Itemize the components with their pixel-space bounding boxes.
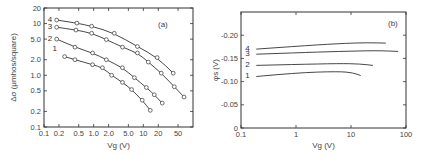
y-axis-label: φs (V) <box>211 59 220 81</box>
series-label-2: 2 <box>48 34 53 43</box>
series-label-2: 2 <box>245 60 250 69</box>
y-tick-label: 2.0 <box>31 55 41 64</box>
series-curve-1 <box>256 72 360 77</box>
panel-a-conductance-vs-gate-voltage: 0.10.20.51.02.05.01020500.10.20.51.02.05… <box>9 4 193 151</box>
y-tick-label: 5.0 <box>31 35 41 44</box>
series-label-3: 3 <box>48 22 53 31</box>
plot-frame <box>44 8 193 127</box>
chart-canvas: 0.10.20.51.02.05.01020500.10.20.51.02.05… <box>0 0 423 156</box>
y-tick-label: -0.20 <box>221 31 238 40</box>
figure: 0.10.20.51.02.05.01020500.10.20.51.02.05… <box>0 0 423 156</box>
data-point-marker <box>74 28 78 32</box>
x-tick-label: 1 <box>294 130 298 139</box>
series-label-1: 1 <box>245 71 250 80</box>
series-label-1: 1 <box>53 44 58 53</box>
series-curve-4 <box>256 43 386 49</box>
data-point-marker <box>104 58 108 62</box>
series-curve-1 <box>65 57 151 111</box>
data-point-marker <box>75 21 79 25</box>
y-tick-label: 20 <box>33 4 41 13</box>
data-point-marker <box>101 66 105 70</box>
y-tick-label: 10 <box>33 19 41 28</box>
data-point-marker <box>159 71 163 75</box>
data-point-marker <box>121 45 125 49</box>
data-point-marker <box>172 85 176 89</box>
data-point-marker <box>91 63 95 67</box>
data-point-marker <box>182 95 186 99</box>
x-tick-label: 2.0 <box>103 129 113 138</box>
x-axis-label: Vg (V) <box>312 141 335 150</box>
y-axis-label: Δσ (μmhos/square) <box>9 33 18 102</box>
data-point-marker <box>152 93 156 97</box>
series-curve-3 <box>256 51 398 54</box>
series-curve-2 <box>256 64 373 66</box>
data-point-marker <box>132 76 136 80</box>
data-point-marker <box>146 60 150 64</box>
x-tick-label: 20 <box>154 129 162 138</box>
y-tick-label: 0 <box>234 124 238 133</box>
data-point-marker <box>140 98 144 102</box>
data-point-marker <box>130 88 134 92</box>
series-label-3: 3 <box>245 49 250 58</box>
y-tick-label: -0.10 <box>221 77 238 86</box>
y-tick-label: -0.15 <box>221 54 238 63</box>
data-point-marker <box>55 37 59 41</box>
data-point-marker <box>121 66 125 70</box>
data-point-marker <box>90 24 94 28</box>
data-point-marker <box>91 51 95 55</box>
data-point-marker <box>90 31 94 35</box>
y-tick-label: 0.5 <box>31 86 41 95</box>
panel-label: (b) <box>388 19 398 28</box>
data-point-marker <box>171 71 175 75</box>
data-point-marker <box>144 86 148 90</box>
data-point-marker <box>155 56 159 60</box>
y-tick-label: 0.2 <box>31 107 41 116</box>
x-tick-label: 100 <box>400 130 413 139</box>
x-tick-label: 50 <box>174 129 182 138</box>
data-point-marker <box>110 73 114 77</box>
x-tick-label: 1.0 <box>88 129 98 138</box>
x-tick-label: 10 <box>139 129 147 138</box>
data-point-marker <box>73 45 77 49</box>
x-tick-label: 5.0 <box>123 129 133 138</box>
y-tick-label: 1.0 <box>31 71 41 80</box>
y-tick-label: 0.1 <box>31 123 41 132</box>
data-point-marker <box>63 55 67 59</box>
series-curve-2 <box>57 39 163 103</box>
panel-label: (a) <box>158 20 168 29</box>
plot-frame <box>241 12 406 128</box>
data-point-marker <box>112 31 116 35</box>
x-tick-label: 0.5 <box>73 129 83 138</box>
data-point-marker <box>148 108 152 112</box>
x-tick-label: 10 <box>347 130 355 139</box>
data-point-marker <box>136 51 140 55</box>
series-curve-3 <box>57 27 184 97</box>
data-point-marker <box>104 38 108 42</box>
y-tick-label: -0.05 <box>221 100 238 109</box>
data-point-marker <box>73 58 77 62</box>
data-point-marker <box>55 25 59 29</box>
data-point-marker <box>136 45 140 49</box>
x-tick-label: 0.2 <box>54 129 64 138</box>
panel-b-surface-potential-vs-gate-voltage: 0.11101000-0.05-0.10-0.15-0.20Vg (V)φs (… <box>211 12 412 150</box>
x-axis-label: Vg (V) <box>107 141 130 150</box>
data-point-marker <box>55 18 59 22</box>
data-point-marker <box>121 80 125 84</box>
data-point-marker <box>160 101 164 105</box>
